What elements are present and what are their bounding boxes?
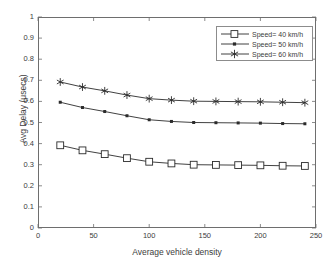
legend-item: Speed= 50 km/h: [220, 39, 312, 49]
data-series-layer: [57, 78, 308, 169]
x-tick-label: 50: [79, 232, 109, 240]
legend-item: Speed= 60 km/h: [220, 49, 312, 59]
chart-legend: Speed= 40 km/h Speed= 50 km/h Speed= 60 …: [216, 26, 313, 61]
legend-sample-square-icon: [220, 29, 250, 39]
data-series: [57, 78, 308, 106]
y-tick-label: 0: [4, 224, 34, 232]
y-tick-label: 0.1: [4, 203, 34, 211]
x-tick-label: 250: [301, 232, 331, 240]
data-series: [57, 142, 308, 169]
legend-item-label: Speed= 60 km/h: [252, 50, 303, 59]
x-tick-label: 150: [190, 232, 220, 240]
legend-sample-dot-icon: [220, 39, 250, 49]
legend-item-label: Speed= 40 km/h: [252, 30, 303, 39]
x-tick-label: 200: [245, 232, 275, 240]
chart-figure: 00.10.20.30.40.50.60.70.80.91 0501001502…: [0, 0, 333, 277]
legend-sample-star-icon: [220, 49, 250, 59]
x-axis-title: Average vehicle density: [38, 247, 316, 257]
x-tick-label: 0: [23, 232, 53, 240]
x-axis-tick-labels: 050100150200250: [0, 232, 333, 244]
caption-fragment: [0, 269, 333, 277]
x-tick-label: 100: [134, 232, 164, 240]
y-tick-label: 1: [4, 13, 34, 21]
legend-item-label: Speed= 50 km/h: [252, 40, 303, 49]
data-series: [59, 101, 307, 126]
y-axis-title: Avg Delay (μsecs): [18, 34, 28, 184]
legend-item: Speed= 40 km/h: [220, 29, 312, 39]
